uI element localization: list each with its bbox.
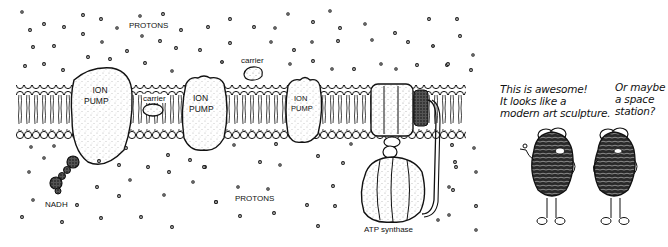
membrane-diagram: PROTONS PROTONS ION PUMP ION PUMP ION PU… bbox=[0, 0, 668, 247]
membrane-illustration bbox=[0, 0, 668, 247]
atp-synthase-label: ATP synthase bbox=[364, 225, 413, 234]
carrier-above-label: carrier bbox=[241, 56, 264, 65]
protons-label-bottom: PROTONS bbox=[235, 194, 274, 203]
speech-left-line2: It looks like a bbox=[500, 95, 610, 107]
ion-pump-2-label-line1: ION bbox=[193, 93, 208, 103]
ion-pump-2-label-line2: PUMP bbox=[189, 104, 214, 114]
speech-right: Or maybe a space station? bbox=[615, 81, 665, 117]
ion-pump-1-label-line2: PUMP bbox=[84, 96, 109, 106]
cartoon-creature-right bbox=[593, 128, 637, 225]
speech-right-line3: station? bbox=[615, 105, 665, 117]
atp-synthase bbox=[361, 84, 440, 222]
nadh-molecule bbox=[50, 156, 79, 194]
speech-left-line3: modern art sculpture. bbox=[500, 107, 610, 119]
speech-left: This is awesome! It looks like a modern … bbox=[500, 83, 610, 119]
speech-left-line1: This is awesome! bbox=[500, 83, 610, 95]
ion-pump-1-line1: ION bbox=[91, 84, 109, 96]
protons-label-top: PROTONS bbox=[129, 21, 168, 30]
cartoon-creature-left bbox=[520, 128, 575, 225]
carrier-membrane-label: carrier bbox=[142, 94, 167, 103]
nadh-label: NADH bbox=[45, 200, 68, 209]
carrier-in-membrane bbox=[143, 104, 163, 116]
speech-right-line2: a space bbox=[615, 93, 665, 105]
ion-pump-1-label: ION bbox=[91, 84, 109, 96]
carrier-above-membrane bbox=[244, 67, 262, 80]
speech-right-line1: Or maybe bbox=[615, 81, 665, 93]
ion-pump-3-label-line2: PUMP bbox=[291, 104, 313, 113]
ion-pump-1 bbox=[71, 68, 132, 165]
ion-pump-3-label-line1: ION bbox=[294, 94, 307, 103]
